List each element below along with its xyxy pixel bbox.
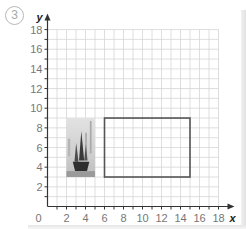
y-tick-label: 8: [36, 122, 42, 134]
boat-photo: [67, 118, 96, 177]
y-axis-label: y: [35, 11, 43, 23]
x-tick-label: 14: [174, 212, 186, 224]
y-tick-label: 10: [30, 102, 42, 114]
y-axis-arrow-icon: [45, 14, 51, 21]
x-tick-label: 16: [193, 212, 205, 224]
origin-label: 0: [35, 212, 41, 224]
x-tick-label: 8: [120, 212, 126, 224]
y-tick-label: 12: [30, 83, 42, 95]
y-tick-label: 4: [36, 161, 42, 173]
y-tick-label: 6: [36, 142, 42, 154]
x-axis-arrow-icon: [228, 204, 235, 210]
y-tick-label: 18: [30, 24, 42, 36]
x-tick-label: 18: [212, 212, 224, 224]
y-tick-label: 14: [30, 63, 42, 75]
x-tick-label: 12: [155, 212, 167, 224]
y-tick-label: 2: [36, 181, 42, 193]
coordinate-grid-chart: 24681012141618246810121416180xy: [0, 0, 246, 229]
y-tick-label: 16: [30, 43, 42, 55]
x-axis-label: x: [228, 212, 236, 224]
x-tick-label: 10: [136, 212, 148, 224]
x-tick-label: 2: [63, 212, 69, 224]
x-tick-label: 6: [101, 212, 107, 224]
worksheet-figure: 3 24681012141618246810121416180xy: [0, 0, 246, 229]
page-edge-shadow: [241, 10, 246, 229]
x-tick-label: 4: [82, 212, 88, 224]
page-edge-shadow-bottom: [28, 225, 246, 229]
